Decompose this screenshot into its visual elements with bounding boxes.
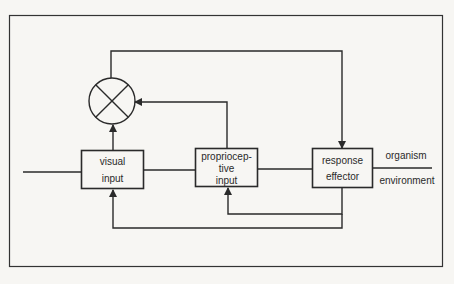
outer-frame: [10, 16, 443, 267]
response-to-proprio-feedback: [228, 188, 342, 215]
diagram-canvas: [0, 0, 454, 284]
proprioceptive-input-label: propriocep- tive input: [195, 152, 258, 186]
proprio-label-line2: tive: [195, 164, 258, 174]
visual-input-label: visual input: [81, 157, 144, 184]
proprio-label-line1: propriocep-: [195, 152, 258, 162]
visual-label-line1: visual: [81, 157, 144, 167]
proprio-to-comparator-arrow: [135, 102, 227, 149]
response-label-line1: response: [312, 156, 373, 166]
summing-junction-icon: [89, 78, 135, 124]
proprio-label-line3: input: [195, 176, 258, 186]
visual-label-line2: input: [81, 174, 144, 184]
response-effector-label: response effector: [312, 156, 373, 182]
response-label-line2: effector: [312, 172, 373, 182]
environment-label: environment: [372, 176, 442, 186]
organism-label: organism: [375, 151, 437, 161]
